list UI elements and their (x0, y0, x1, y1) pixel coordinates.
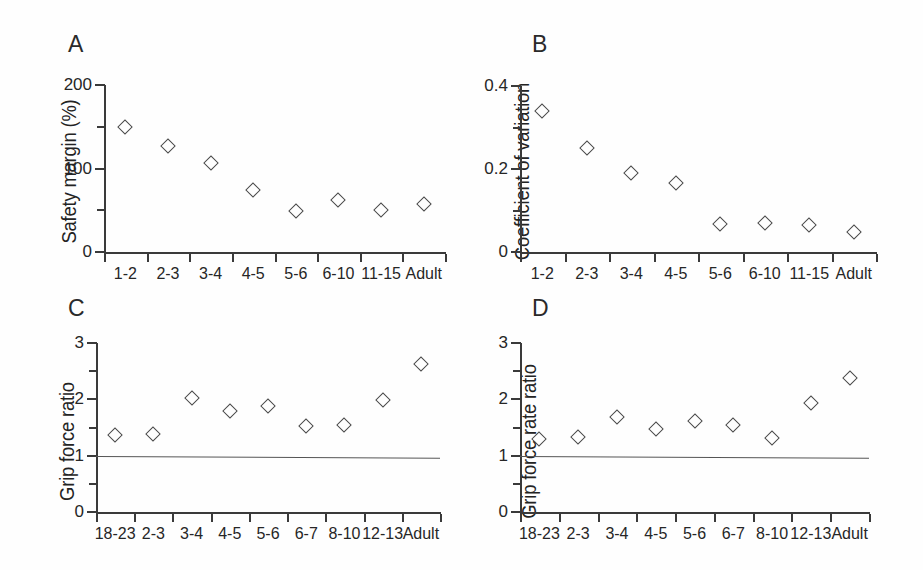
x-axis-tick (791, 514, 793, 522)
y-axis-tick (95, 168, 105, 170)
x-axis-tick (96, 514, 98, 522)
data-point-marker (337, 417, 353, 433)
x-axis-tick (787, 254, 789, 262)
y-axis-tick-label: 0 (20, 503, 84, 520)
y-axis-tick-label: 0.2 (444, 160, 508, 177)
x-axis-tick (698, 254, 700, 262)
data-point-marker (146, 426, 162, 442)
panel-letter-a: A (68, 33, 84, 56)
y-axis-tick (513, 427, 521, 429)
x-axis-tick (830, 514, 832, 522)
y-axis-tick (511, 168, 521, 170)
x-axis-tick (654, 254, 656, 262)
x-axis-tick (869, 514, 871, 522)
x-axis-tick (598, 514, 600, 522)
y-axis-tick (513, 483, 521, 485)
y-axis-tick (511, 85, 521, 87)
x-axis-tick (189, 254, 191, 262)
x-axis-tick (753, 514, 755, 522)
data-point-marker (687, 414, 703, 430)
x-axis-tick (134, 514, 136, 522)
panel-a: A Safety margin (%) 01002001-22-33-44-55… (0, 0, 462, 285)
data-point-marker (107, 428, 123, 444)
data-point-marker (118, 119, 134, 135)
x-axis-tick (402, 514, 404, 522)
x-axis-tick (714, 514, 716, 522)
panel-a-plot-area: 01002001-22-33-44-55-66-1011-15Adult (104, 85, 445, 252)
data-point-marker (413, 356, 429, 372)
x-axis-tick (232, 254, 234, 262)
data-point-marker (245, 182, 261, 198)
panel-letter-b: B (532, 33, 548, 56)
x-axis-tick (147, 254, 149, 262)
panel-d: D Grip force rate ratio 012318-232-33-44… (462, 285, 923, 570)
x-axis-tick (609, 254, 611, 262)
data-point-marker (570, 429, 586, 445)
panel-c: C Grip force ratio 012318-232-33-44-55-6… (0, 285, 462, 570)
data-point-marker (757, 215, 773, 231)
x-axis-tick (520, 514, 522, 522)
data-point-marker (331, 192, 347, 208)
y-axis-tick (97, 209, 105, 211)
x-axis-tick (325, 514, 327, 522)
y-axis-tick-label: 0.4 (444, 77, 508, 94)
data-point-marker (298, 418, 314, 434)
y-axis-tick (95, 84, 105, 86)
panel-b-plot-area: 00.20.41-22-33-44-55-66-1011-15Adult (520, 86, 876, 252)
x-axis-tick (360, 254, 362, 262)
data-point-marker (623, 165, 639, 181)
figure-canvas: A Safety margin (%) 01002001-22-33-44-55… (0, 0, 923, 570)
data-point-marker (375, 392, 391, 408)
data-point-marker (712, 216, 728, 232)
x-axis-tick (876, 254, 878, 262)
panel-letter-d: D (532, 297, 549, 320)
y-axis-tick (89, 427, 97, 429)
x-axis-tick (832, 254, 834, 262)
y-axis-tick (511, 511, 521, 513)
data-point-marker (801, 217, 817, 233)
data-point-marker (373, 202, 389, 218)
x-axis-tick (287, 514, 289, 522)
data-point-marker (260, 398, 276, 414)
data-point-marker (534, 103, 550, 119)
y-axis-tick (511, 251, 521, 253)
data-point-marker (668, 175, 684, 191)
data-point-marker (648, 421, 664, 437)
x-axis-tick-label: Adult (388, 266, 460, 282)
y-axis-tick (89, 370, 97, 372)
x-axis-tick (440, 514, 442, 522)
data-point-marker (203, 156, 219, 172)
x-axis-tick (636, 514, 638, 522)
x-axis-line (96, 512, 441, 514)
y-axis-tick-label: 200 (28, 76, 92, 93)
x-axis-tick (104, 254, 106, 262)
data-point-marker (416, 197, 432, 213)
x-axis-tick (402, 254, 404, 262)
x-axis-tick (743, 254, 745, 262)
y-axis-tick (513, 210, 521, 212)
panel-c-plot-area: 012318-232-33-44-55-66-78-1012-13Adult (96, 343, 440, 512)
y-axis-tick-label: 2 (444, 390, 508, 407)
y-axis-tick-label: 1 (20, 447, 84, 464)
y-axis-tick (87, 511, 97, 513)
data-point-marker (579, 140, 595, 156)
y-axis-tick (87, 398, 97, 400)
y-axis-tick-label: 3 (444, 334, 508, 351)
x-axis-tick (565, 254, 567, 262)
data-point-marker (725, 417, 741, 433)
data-point-marker (842, 370, 858, 386)
y-axis-tick (513, 370, 521, 372)
data-point-marker (803, 395, 819, 411)
y-axis-tick-label: 0 (444, 243, 508, 260)
x-axis-tick (559, 514, 561, 522)
reference-line (520, 456, 869, 459)
panel-d-plot-area: 012318-232-33-44-55-66-78-1012-13Adult (520, 343, 869, 512)
x-axis-tick-label: Adult (385, 526, 457, 542)
panel-letter-c: C (68, 297, 85, 320)
data-point-marker (184, 390, 200, 406)
x-axis-tick (211, 514, 213, 522)
x-axis-line (520, 512, 870, 514)
data-point-marker (764, 430, 780, 446)
data-point-marker (222, 403, 238, 419)
data-point-marker (609, 409, 625, 425)
